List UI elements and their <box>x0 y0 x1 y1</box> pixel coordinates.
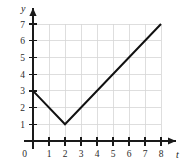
chart-svg: 1 2 3 4 5 6 7 8 1 2 3 4 5 6 7 0 y t <box>0 0 192 165</box>
y-tick-label-1: 1 <box>20 120 25 130</box>
x-tick-label-7: 7 <box>143 149 148 159</box>
origin-label: 0 <box>22 149 27 159</box>
y-tick-label-3: 3 <box>20 86 25 96</box>
y-axis <box>29 8 36 149</box>
x-tick-label-6: 6 <box>127 149 132 159</box>
y-axis-arrow-icon <box>29 8 36 16</box>
y-axis-tick-labels: 1 2 3 4 5 6 7 <box>20 20 25 130</box>
chart-figure: 1 2 3 4 5 6 7 8 1 2 3 4 5 6 7 0 y t <box>0 0 192 165</box>
y-tick-label-6: 6 <box>20 36 25 46</box>
x-tick-label-1: 1 <box>47 149 52 159</box>
y-axis-label: y <box>20 3 26 14</box>
x-axis <box>24 137 176 144</box>
y-tick-label-7: 7 <box>20 20 25 30</box>
y-tick-label-2: 2 <box>20 103 25 113</box>
x-axis-arrow-icon <box>168 137 176 144</box>
x-axis-label: t <box>176 149 179 160</box>
y-tick-label-4: 4 <box>20 70 25 80</box>
x-tick-label-2: 2 <box>63 149 68 159</box>
x-tick-label-4: 4 <box>95 149 100 159</box>
x-axis-tick-labels: 1 2 3 4 5 6 7 8 <box>47 149 164 159</box>
y-tick-label-5: 5 <box>20 53 25 63</box>
x-tick-label-3: 3 <box>79 149 84 159</box>
x-tick-label-8: 8 <box>159 149 164 159</box>
x-tick-label-5: 5 <box>111 149 116 159</box>
